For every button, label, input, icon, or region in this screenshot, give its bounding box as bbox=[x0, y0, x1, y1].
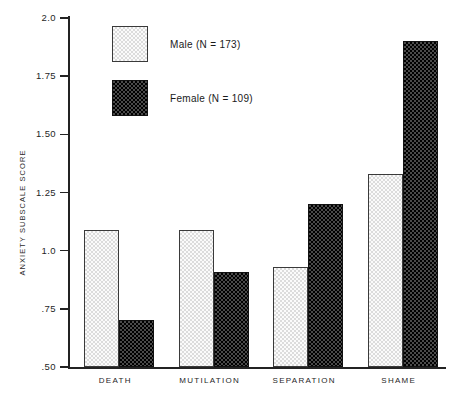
y-tick-label: 1.75 bbox=[36, 70, 56, 81]
y-tick-label-wrap: 1.25 bbox=[0, 187, 56, 199]
y-tick-label: 1.50 bbox=[36, 128, 56, 139]
y-tick-label-wrap: 1.0 bbox=[0, 245, 56, 257]
bar-death-female bbox=[119, 320, 154, 367]
y-tick-label-wrap: .50 bbox=[0, 361, 56, 373]
x-axis-label-mutilation: MUTILATION bbox=[163, 376, 258, 385]
legend-item-female: Female (N = 109) bbox=[112, 78, 253, 118]
y-tick-label-wrap: 1.75 bbox=[0, 70, 56, 82]
x-axis-line bbox=[68, 367, 446, 369]
bar-mutilation-male bbox=[179, 230, 214, 367]
y-tick-mark bbox=[60, 250, 68, 252]
x-axis-label-death: DEATH bbox=[68, 376, 163, 385]
bar-separation-male bbox=[273, 267, 308, 367]
bar-separation-female bbox=[308, 204, 343, 367]
y-tick-label: 1.25 bbox=[36, 187, 56, 198]
legend-label-female: Female (N = 109) bbox=[170, 93, 253, 104]
x-axis-label-separation: SEPARATION bbox=[257, 376, 352, 385]
y-tick-label: .75 bbox=[42, 303, 56, 314]
y-tick-label: .50 bbox=[42, 361, 56, 372]
bar-death-male bbox=[84, 230, 119, 367]
y-tick-mark bbox=[60, 75, 68, 77]
legend-label-male: Male (N = 173) bbox=[170, 39, 241, 50]
bar-shame-male bbox=[368, 174, 403, 367]
anxiety-subscale-bar-chart: ANXIETY SUBSCALE SCORE .50.751.01.251.50… bbox=[0, 0, 454, 402]
bar-shame-female bbox=[403, 41, 438, 367]
y-tick-label-wrap: .75 bbox=[0, 303, 56, 315]
y-tick-label: 1.0 bbox=[42, 245, 56, 256]
bar-mutilation-female bbox=[214, 272, 249, 367]
y-tick-mark bbox=[60, 192, 68, 194]
y-tick-label: 2.0 bbox=[42, 12, 56, 23]
y-tick-label-wrap: 2.0 bbox=[0, 12, 56, 24]
legend-swatch-female-icon bbox=[112, 80, 148, 116]
y-axis-title: ANXIETY SUBSCALE SCORE bbox=[18, 133, 27, 293]
chart-legend: Male (N = 173) Female (N = 109) bbox=[112, 24, 253, 132]
y-tick-label-wrap: 1.50 bbox=[0, 128, 56, 140]
y-tick-mark bbox=[60, 366, 68, 368]
x-axis-label-shame: SHAME bbox=[352, 376, 447, 385]
y-tick-mark bbox=[60, 17, 68, 19]
y-tick-mark bbox=[60, 308, 68, 310]
y-tick-mark bbox=[60, 134, 68, 136]
legend-swatch-male-icon bbox=[112, 26, 148, 62]
legend-item-male: Male (N = 173) bbox=[112, 24, 253, 64]
